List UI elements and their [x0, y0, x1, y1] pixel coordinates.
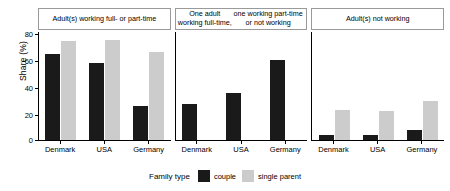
bar-group-germany	[270, 32, 301, 140]
bar-germany-couple[interactable]	[407, 130, 422, 140]
x-tick-denmark: Denmark	[180, 141, 213, 159]
x-tick-label: Germany	[132, 145, 165, 154]
x-tick-mark	[104, 141, 105, 144]
x-tick-denmark: Denmark	[317, 141, 350, 159]
bar-series-group	[39, 32, 171, 140]
bar-series-group	[312, 32, 444, 140]
legend-item-single-parent[interactable]: single parent	[242, 170, 301, 182]
x-tick-germany: Germany	[132, 141, 165, 159]
bar-group-denmark	[45, 32, 76, 140]
legend-item-couple[interactable]: couple	[198, 170, 236, 182]
bar-usa-couple[interactable]	[89, 63, 104, 141]
x-tick-label: Denmark	[44, 145, 77, 154]
legend-swatch-single-parent	[242, 170, 254, 182]
bar-germany-single-parent[interactable]	[423, 101, 438, 140]
x-tick-label: Germany	[269, 145, 302, 154]
bar-usa-couple[interactable]	[226, 93, 241, 140]
y-axis: 80 60 40 20 0	[0, 8, 38, 141]
x-tick-label: USA	[88, 145, 121, 154]
bar-germany-single-parent[interactable]	[149, 52, 164, 140]
facet-strip-title: One adult working full-time, one working…	[175, 8, 308, 30]
x-tick-mark	[60, 141, 61, 144]
x-tick-label: Denmark	[317, 145, 350, 154]
facet-panel-one-full-time-one-part-time: One adult working full-time, one working…	[175, 8, 308, 141]
x-tick-mark	[421, 141, 422, 144]
legend-title: Family type	[149, 172, 190, 181]
x-tick-label: USA	[361, 145, 394, 154]
facet-plot	[311, 32, 444, 141]
legend-label-couple: couple	[214, 172, 236, 181]
bar-denmark-couple[interactable]	[182, 104, 197, 140]
facet-strip-title-line2: one working part-time or not working	[232, 10, 304, 27]
x-tick-usa: USA	[88, 141, 121, 159]
x-axis: Denmark USA Germany Denmark USA Ger	[38, 141, 444, 159]
x-tick-label: Denmark	[180, 145, 213, 154]
bar-usa-single-parent[interactable]	[105, 40, 120, 140]
x-tick-usa: USA	[361, 141, 394, 159]
facet-plot	[175, 32, 308, 141]
x-tick-mark	[241, 141, 242, 144]
bar-group-germany	[407, 32, 438, 140]
y-tick-40: 40	[25, 84, 38, 94]
bar-usa-single-parent[interactable]	[379, 111, 394, 140]
y-tick-label: 0	[29, 136, 33, 146]
x-tick-mark	[196, 141, 197, 144]
x-tick-germany: Germany	[405, 141, 438, 159]
bar-group-usa	[226, 32, 257, 140]
facet-strip-title: Adult(s) working full- or part-time	[38, 8, 171, 30]
facet-plot	[38, 32, 171, 141]
legend-label-single-parent: single parent	[258, 172, 301, 181]
bar-denmark-couple[interactable]	[319, 135, 334, 140]
bar-group-germany	[133, 32, 164, 140]
y-tick-label: 40	[25, 84, 33, 94]
bar-series-group	[176, 32, 308, 140]
y-tick-label: 20	[25, 111, 33, 121]
x-tick-mark	[148, 141, 149, 144]
bar-group-denmark	[319, 32, 350, 140]
y-tick-label: 60	[25, 57, 33, 67]
y-tick-80: 80	[25, 30, 38, 40]
x-axis-facet-3: Denmark USA Germany	[311, 141, 444, 159]
x-tick-germany: Germany	[269, 141, 302, 159]
y-tick-0: 0	[29, 136, 38, 146]
y-tick-60: 60	[25, 57, 38, 67]
x-tick-label: Germany	[405, 145, 438, 154]
x-axis-facet-2: Denmark USA Germany	[175, 141, 308, 159]
facet-strip-title: Adult(s) not working	[311, 8, 444, 30]
y-tick-label: 80	[25, 30, 33, 40]
plot-area: Adult(s) working full- or part-time	[38, 8, 444, 141]
x-axis-facet-1: Denmark USA Germany	[38, 141, 171, 159]
bar-germany-couple[interactable]	[270, 60, 285, 140]
x-tick-usa: USA	[225, 141, 258, 159]
x-tick-mark	[377, 141, 378, 144]
bar-denmark-couple[interactable]	[45, 54, 60, 140]
x-tick-label: USA	[225, 145, 258, 154]
x-tick-mark	[333, 141, 334, 144]
facet-panel-working-full-or-part-time: Adult(s) working full- or part-time	[38, 8, 171, 141]
bar-germany-couple[interactable]	[133, 106, 148, 140]
legend: Family type couple single parent	[0, 168, 450, 184]
bar-chart: Share (%) 80 60 40 20 0 Adult(s) working…	[0, 0, 450, 191]
x-tick-mark	[285, 141, 286, 144]
bar-group-usa	[363, 32, 394, 140]
facet-strip-title-line1: One adult working full-time,	[178, 10, 232, 27]
facet-panel-not-working: Adult(s) not working	[311, 8, 444, 141]
bar-group-usa	[89, 32, 120, 140]
bar-denmark-single-parent[interactable]	[335, 110, 350, 140]
bar-denmark-single-parent[interactable]	[61, 41, 76, 140]
legend-swatch-couple	[198, 170, 210, 182]
x-tick-denmark: Denmark	[44, 141, 77, 159]
bar-usa-couple[interactable]	[363, 135, 378, 140]
y-tick-20: 20	[25, 111, 38, 121]
bar-group-denmark	[182, 32, 213, 140]
